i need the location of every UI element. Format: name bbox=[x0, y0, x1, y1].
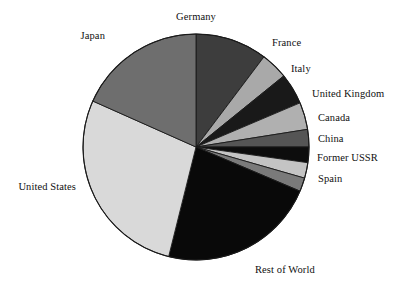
pie-label-rest-of-world: Rest of World bbox=[255, 265, 315, 276]
pie-label-italy: Italy bbox=[291, 64, 311, 75]
pie-slice-group bbox=[83, 34, 309, 260]
pie-label-germany: Germany bbox=[0, 12, 401, 23]
pie-label-former-ussr: Former USSR bbox=[317, 153, 378, 164]
pie-label-france: France bbox=[272, 38, 301, 49]
pie-label-spain: Spain bbox=[318, 174, 342, 185]
pie-chart-figure: GermanyFranceItalyUnited KingdomCanadaCh… bbox=[0, 0, 409, 285]
pie-label-canada: Canada bbox=[318, 113, 350, 124]
pie-label-united-kingdom: United Kingdom bbox=[312, 89, 384, 100]
pie-label-china: China bbox=[318, 134, 344, 145]
pie-label-united-states: United States bbox=[0, 182, 76, 193]
pie-chart-canvas bbox=[0, 0, 409, 285]
pie-label-japan: Japan bbox=[0, 31, 105, 42]
